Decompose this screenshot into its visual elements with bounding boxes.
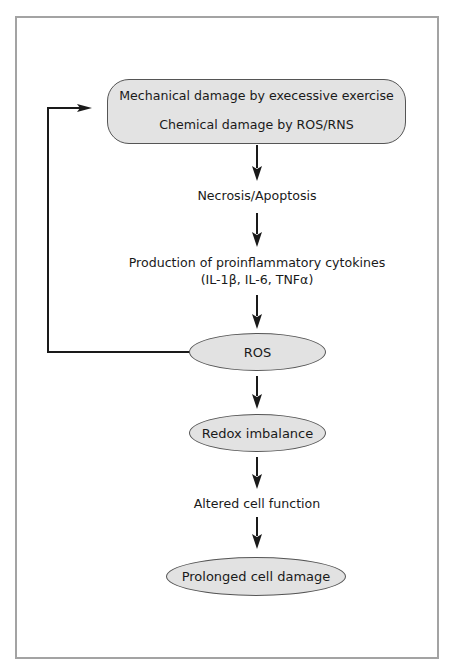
- mechanical-damage-text: Mechanical damage by execessive exercise: [119, 88, 394, 104]
- damage-causes-box: Mechanical damage by execessive exercise…: [107, 79, 406, 144]
- arrow-production-to-ros: [252, 295, 262, 329]
- ros-label: ROS: [244, 345, 272, 360]
- ros-ellipse: ROS: [189, 333, 326, 371]
- arrow-altered-to-prolonged: [252, 517, 262, 549]
- arrow-necrosis-to-production: [252, 213, 262, 247]
- cytokine-production-line1: Production of proinflammatory cytokines: [129, 254, 386, 271]
- redox-imbalance-label: Redox imbalance: [202, 426, 314, 441]
- altered-cell-function-label: Altered cell function: [126, 496, 388, 512]
- arrow-damage-to-necrosis: [252, 145, 262, 181]
- chemical-damage-text: Chemical damage by ROS/RNS: [159, 117, 353, 133]
- arrow-redox-to-altered: [252, 457, 262, 489]
- prolonged-cell-damage-label: Prolonged cell damage: [182, 569, 331, 584]
- arrow-ros-to-redox: [252, 376, 262, 409]
- cytokine-production-label: Production of proinflammatory cytokines …: [96, 254, 418, 288]
- prolonged-cell-damage-ellipse: Prolonged cell damage: [166, 557, 346, 596]
- cytokine-list-line2: (IL-1β, IL-6, TNFα): [201, 271, 314, 288]
- redox-imbalance-ellipse: Redox imbalance: [189, 414, 326, 452]
- necrosis-apoptosis-label: Necrosis/Apoptosis: [126, 188, 388, 204]
